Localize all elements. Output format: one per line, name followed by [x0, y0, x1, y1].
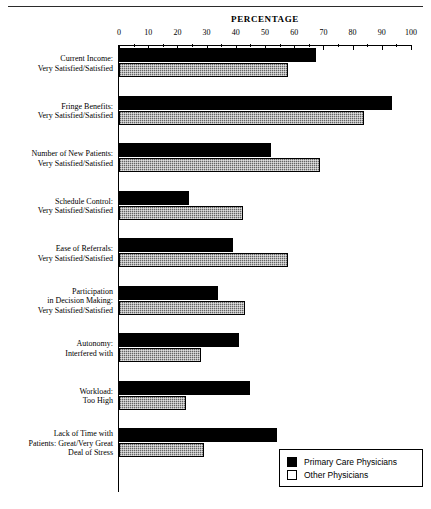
category-label-line: Very Satisfied/Satisfied: [1, 111, 113, 121]
x-tick-minor: [192, 44, 193, 47]
category-label: Lack of Time withPatients: Great/Very Gr…: [1, 429, 113, 458]
bar-other-physicians: [119, 348, 201, 362]
bar-group: Schedule Control:Very Satisfied/Satisfie…: [0, 191, 431, 239]
bar-primary-care-physicians: [119, 381, 250, 395]
x-tick-minor: [338, 44, 339, 47]
category-label-line: Very Satisfied/Satisfied: [1, 206, 113, 216]
x-tick-label-60: 60: [290, 28, 298, 37]
x-axis-tick-labels: 0102030405060708090100: [119, 28, 411, 40]
bar-group: Current Income:Very Satisfied/Satisfied: [0, 48, 431, 96]
bar-other-physicians: [119, 206, 243, 220]
category-label: Schedule Control:Very Satisfied/Satisfie…: [1, 197, 113, 216]
legend-item-primary-care-physicians: Primary Care Physicians: [287, 455, 416, 468]
bar-group: Fringe Benefits:Very Satisfied/Satisfied: [0, 96, 431, 144]
bar-group: Participationin Decision Making:Very Sat…: [0, 286, 431, 334]
x-tick-minor: [163, 44, 164, 47]
top-horizontal-rule: [8, 6, 423, 7]
category-label: Workload:Too High: [1, 387, 113, 406]
category-label-line: Very Satisfied/Satisfied: [1, 64, 113, 74]
category-label-line: Fringe Benefits:: [1, 102, 113, 112]
legend-swatch-other-icon: [287, 470, 297, 480]
category-label: Participationin Decision Making:Very Sat…: [1, 287, 113, 316]
x-tick-label-40: 40: [232, 28, 240, 37]
bar-pair: [119, 191, 411, 220]
category-label-line: Too High: [1, 396, 113, 406]
bar-group: Workload:Too High: [0, 381, 431, 429]
category-label-line: in Decision Making:: [1, 296, 113, 306]
category-label-line: Interfered with: [1, 349, 113, 359]
category-label-line: Ease of Referrals:: [1, 244, 113, 254]
x-tick-minor: [280, 44, 281, 47]
bar-other-physicians: [119, 253, 288, 267]
bar-pair: [119, 96, 411, 125]
legend-swatch-primary-icon: [287, 457, 297, 467]
bar-pair: [119, 333, 411, 362]
bar-pair: [119, 286, 411, 315]
category-label-line: Schedule Control:: [1, 197, 113, 207]
bar-group: Number of New Patients:Very Satisfied/Sa…: [0, 143, 431, 191]
x-tick-label-20: 20: [173, 28, 181, 37]
x-tick-minor: [250, 44, 251, 47]
bar-group: Autonomy:Interfered with: [0, 333, 431, 381]
bar-pair: [119, 381, 411, 410]
bar-primary-care-physicians: [119, 96, 392, 110]
category-label-line: Very Satisfied/Satisfied: [1, 159, 113, 169]
x-tick-minor: [367, 44, 368, 47]
bar-other-physicians: [119, 63, 288, 77]
bar-primary-care-physicians: [119, 143, 271, 157]
bar-primary-care-physicians: [119, 286, 218, 300]
legend-label-other: Other Physicians: [304, 470, 368, 480]
x-tick-label-0: 0: [117, 28, 121, 37]
category-label-line: Patients: Great/Very Great: [1, 439, 113, 449]
category-label: Ease of Referrals:Very Satisfied/Satisfi…: [1, 244, 113, 263]
category-label-line: Very Satisfied/Satisfied: [1, 254, 113, 264]
x-tick-label-100: 100: [405, 28, 417, 37]
chart-figure: PERCENTAGE 0102030405060708090100 Curren…: [0, 0, 431, 509]
category-label: Autonomy:Interfered with: [1, 339, 113, 358]
chart-legend: Primary Care Physicians Other Physicians: [279, 449, 423, 487]
bar-pair: [119, 238, 411, 267]
x-tick-minor: [134, 44, 135, 47]
bar-primary-care-physicians: [119, 191, 189, 205]
bar-other-physicians: [119, 158, 320, 172]
bar-group: Ease of Referrals:Very Satisfied/Satisfi…: [0, 238, 431, 286]
legend-label-primary: Primary Care Physicians: [304, 457, 397, 467]
x-tick-label-10: 10: [144, 28, 152, 37]
x-tick-label-50: 50: [261, 28, 269, 37]
category-label: Fringe Benefits:Very Satisfied/Satisfied: [1, 102, 113, 121]
bar-primary-care-physicians: [119, 238, 233, 252]
category-label-line: Deal of Stress: [1, 448, 113, 458]
category-label-line: Participation: [1, 287, 113, 297]
x-tick-label-90: 90: [378, 28, 386, 37]
bar-primary-care-physicians: [119, 48, 316, 62]
category-label-line: Current Income:: [1, 54, 113, 64]
bar-other-physicians: [119, 443, 204, 457]
bar-other-physicians: [119, 111, 364, 125]
bar-other-physicians: [119, 301, 245, 315]
legend-item-other-physicians: Other Physicians: [287, 468, 416, 481]
category-label-line: Autonomy:: [1, 339, 113, 349]
x-tick-minor: [221, 44, 222, 47]
category-label-line: Very Satisfied/Satisfied: [1, 306, 113, 316]
category-label: Number of New Patients:Very Satisfied/Sa…: [1, 149, 113, 168]
category-label: Current Income:Very Satisfied/Satisfied: [1, 54, 113, 73]
x-tick-minor: [396, 44, 397, 47]
x-tick-minor: [309, 44, 310, 47]
category-label-line: Number of New Patients:: [1, 149, 113, 159]
bar-primary-care-physicians: [119, 428, 277, 442]
bar-primary-care-physicians: [119, 333, 239, 347]
x-tick-label-80: 80: [349, 28, 357, 37]
bar-groups: Current Income:Very Satisfied/SatisfiedF…: [0, 48, 431, 476]
x-tick-label-30: 30: [203, 28, 211, 37]
bar-pair: [119, 143, 411, 172]
category-label-line: Workload:: [1, 387, 113, 397]
x-axis-title: PERCENTAGE: [119, 14, 411, 24]
category-label-line: Lack of Time with: [1, 429, 113, 439]
bar-other-physicians: [119, 396, 186, 410]
x-tick-label-70: 70: [319, 28, 327, 37]
bar-pair: [119, 48, 411, 77]
